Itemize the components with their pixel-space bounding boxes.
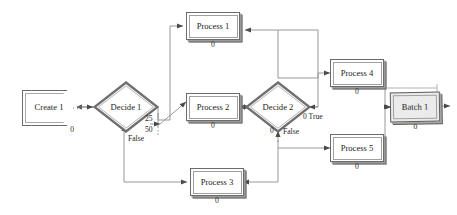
flowchart-canvas: Create 1 0 Decide 1 Process 1 0 Process … (0, 0, 457, 215)
decide2-label: Decide 2 (245, 103, 311, 112)
module-decide2[interactable]: Decide 2 (245, 81, 311, 133)
module-create1[interactable]: Create 1 0 (22, 90, 76, 124)
decide1-branch-25-label: 25 (145, 115, 153, 123)
process1-label: Process 1 (187, 22, 239, 31)
process5-label: Process 5 (331, 144, 383, 153)
process4-label: Process 4 (331, 69, 383, 78)
module-process4[interactable]: Process 4 0 (330, 59, 384, 87)
decide2-false-label: False (283, 128, 299, 136)
process2-count: 0 (187, 122, 239, 130)
decide1-branch-50-label: 50 (145, 126, 153, 134)
create1-count: 0 (22, 126, 76, 134)
wire-decide2-false-to-process3 (243, 148, 278, 182)
batch1-count: 0 (391, 123, 439, 131)
process3-label: Process 3 (191, 178, 243, 187)
decide2-false-count-label: 0 (270, 127, 274, 135)
process1-count: 0 (187, 41, 239, 49)
batch1-label: Batch 1 (391, 102, 439, 111)
module-process5[interactable]: Process 5 0 (330, 134, 384, 162)
decide1-false-label: False (128, 135, 144, 143)
create1-label: Create 1 (22, 103, 76, 112)
wire-decide2-false-to-process5 (278, 140, 330, 148)
module-process3[interactable]: Process 3 0 (190, 168, 244, 196)
module-batch1[interactable]: Batch 1 0 (390, 92, 440, 123)
decide1-label: Decide 1 (93, 103, 159, 112)
process3-count: 0 (191, 197, 243, 205)
wire-decide1-to-process1 (158, 26, 183, 120)
decide2-true-label: 0 True (303, 113, 323, 121)
module-process2[interactable]: Process 2 0 (186, 93, 240, 121)
wire-decide1-to-process2 (160, 102, 186, 124)
module-process1[interactable]: Process 1 0 (186, 12, 240, 40)
process2-label: Process 2 (187, 103, 239, 112)
process4-count: 0 (331, 88, 383, 96)
wire-decide2-true-to-process4 (278, 73, 330, 78)
process5-count: 0 (331, 163, 383, 171)
